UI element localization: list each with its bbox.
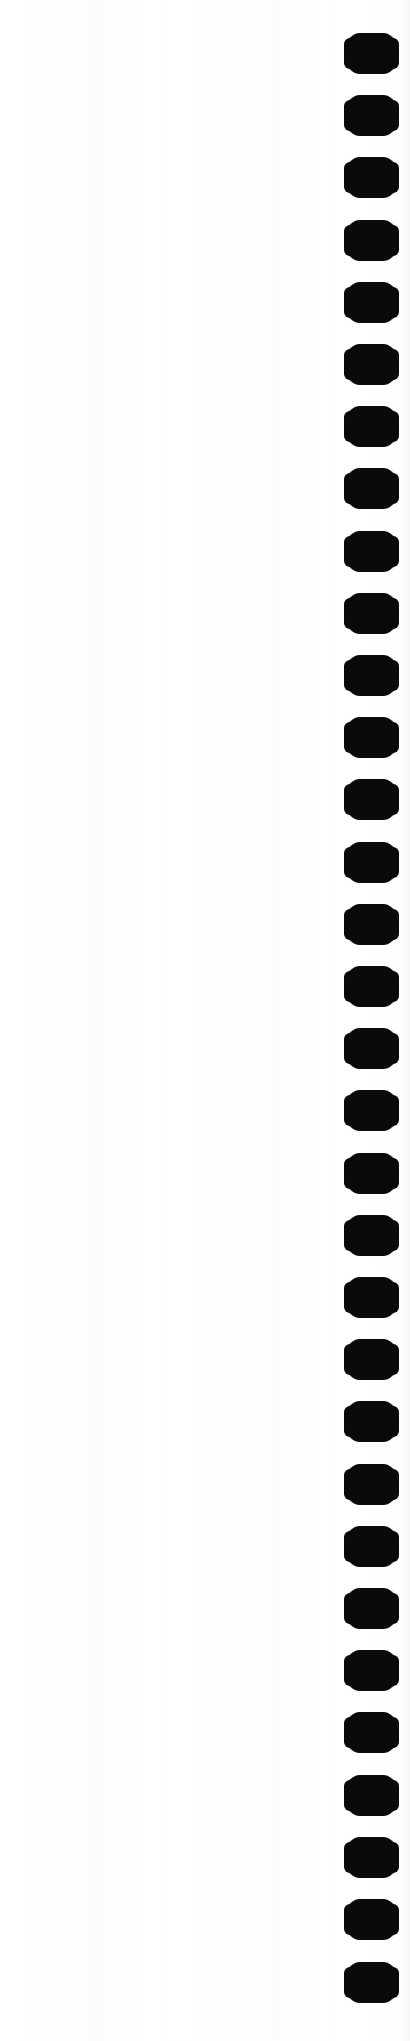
binding-hole bbox=[345, 283, 398, 322]
binding-hole bbox=[345, 1900, 398, 1939]
scan-streak bbox=[99, 0, 101, 2041]
binding-hole bbox=[345, 1651, 398, 1690]
binding-hole-column bbox=[345, 0, 398, 2041]
binding-hole bbox=[345, 221, 398, 260]
binding-hole bbox=[345, 1713, 398, 1752]
scan-streak bbox=[332, 0, 334, 2041]
binding-hole bbox=[345, 1154, 398, 1193]
binding-hole bbox=[345, 656, 398, 695]
binding-hole bbox=[345, 1589, 398, 1628]
binding-hole bbox=[345, 532, 398, 571]
scanned-page bbox=[0, 0, 410, 2041]
binding-hole bbox=[345, 34, 398, 73]
binding-hole bbox=[345, 345, 398, 384]
binding-hole bbox=[345, 967, 398, 1006]
binding-hole bbox=[345, 1402, 398, 1441]
binding-hole bbox=[345, 1527, 398, 1566]
binding-hole bbox=[345, 905, 398, 944]
binding-hole bbox=[345, 1776, 398, 1815]
binding-hole bbox=[345, 158, 398, 197]
binding-hole bbox=[345, 407, 398, 446]
binding-hole bbox=[345, 1216, 398, 1255]
binding-hole bbox=[345, 718, 398, 757]
binding-hole bbox=[345, 1465, 398, 1504]
scan-streak bbox=[277, 0, 280, 2041]
binding-hole bbox=[345, 1029, 398, 1068]
binding-hole bbox=[345, 1838, 398, 1877]
binding-hole bbox=[345, 1963, 398, 2002]
scan-streak bbox=[93, 0, 96, 2041]
binding-hole bbox=[345, 469, 398, 508]
binding-hole bbox=[345, 843, 398, 882]
binding-hole bbox=[345, 1340, 398, 1379]
binding-hole bbox=[345, 780, 398, 819]
binding-hole bbox=[345, 1278, 398, 1317]
binding-hole bbox=[345, 594, 398, 633]
page-edge-shade bbox=[402, 0, 410, 2041]
binding-hole bbox=[345, 96, 398, 135]
scan-streak bbox=[165, 0, 167, 2041]
binding-hole bbox=[345, 1091, 398, 1130]
